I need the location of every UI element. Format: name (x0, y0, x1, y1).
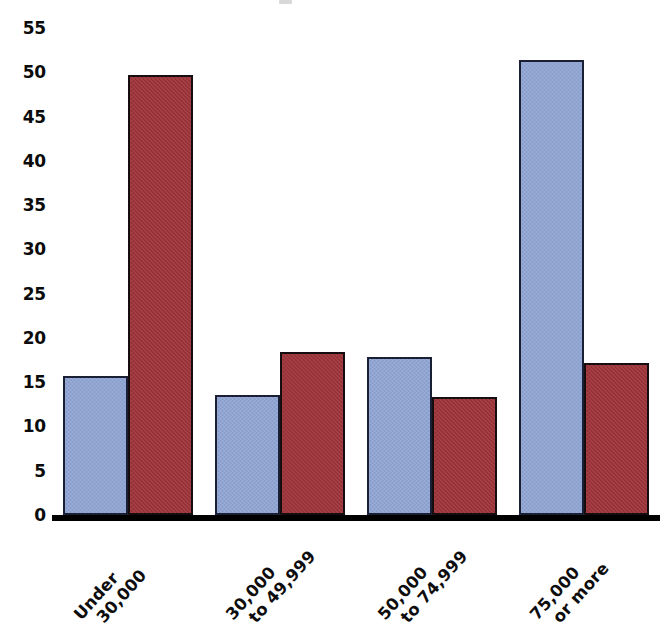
y-tick-label: 25 (0, 285, 46, 302)
x-tick-label: 50,000to 74,999 (374, 534, 471, 636)
x-tick-label: 75,000or more (526, 546, 613, 636)
y-tick-label: 20 (0, 329, 46, 346)
bar (519, 60, 584, 515)
y-tick-label: 45 (0, 108, 46, 125)
y-tick-label: 50 (0, 64, 46, 81)
bar (215, 395, 280, 515)
y-tick-label: 55 (0, 20, 46, 37)
x-tick-label: Under30,000 (70, 553, 150, 636)
y-tick-label: 15 (0, 374, 46, 391)
bar (367, 357, 432, 515)
bar (584, 363, 649, 515)
bar (63, 376, 128, 515)
bar (128, 75, 193, 515)
y-tick-label: 5 (0, 462, 46, 479)
y-tick-label: 35 (0, 197, 46, 214)
bar-chart: 0510152025303540455055 Under30,00030,000… (0, 0, 668, 640)
y-tick-label: 10 (0, 418, 46, 435)
x-tick-label: 30,000to 49,999 (222, 534, 319, 636)
y-tick-label: 30 (0, 241, 46, 258)
bar (432, 397, 497, 515)
plot-area (52, 0, 660, 515)
x-axis: Under30,00030,000to 49,99950,000to 74,99… (0, 515, 668, 640)
y-tick-label: 40 (0, 152, 46, 169)
bar (280, 352, 345, 515)
